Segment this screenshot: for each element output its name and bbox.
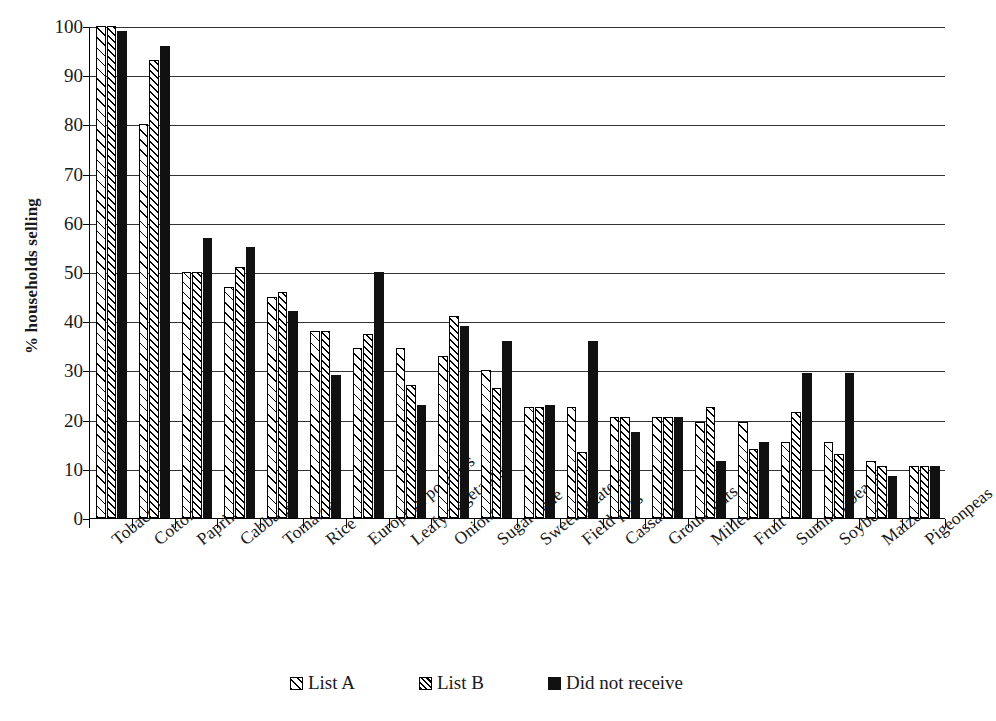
bar-group: [218, 27, 261, 518]
bar: [363, 334, 373, 519]
bar: [567, 407, 577, 518]
bar: [203, 238, 213, 518]
bar-group: [304, 27, 347, 518]
y-axis-tick: [83, 421, 90, 422]
bar: [716, 461, 726, 518]
bar: [781, 442, 791, 518]
bar: [224, 287, 234, 518]
y-axis-tick: [83, 470, 90, 471]
bar-group: [133, 27, 176, 518]
bar: [845, 373, 855, 518]
bar: [706, 407, 716, 518]
bar: [160, 46, 170, 518]
bar: [866, 461, 876, 518]
bar: [749, 449, 759, 518]
legend-label: Did not receive: [566, 672, 683, 694]
bar-group: [390, 27, 433, 518]
bars-layer: [90, 27, 945, 518]
y-axis-tick-label: 30: [27, 361, 83, 380]
bar-group: [732, 27, 775, 518]
bar: [930, 466, 940, 518]
bar-group: [689, 27, 732, 518]
bar: [738, 422, 748, 518]
bar-group: [818, 27, 861, 518]
bar-group: [90, 27, 133, 518]
bar: [492, 388, 502, 518]
bar-group: [561, 27, 604, 518]
bar-group: [860, 27, 903, 518]
x-axis-tick-label: Rice: [323, 515, 359, 549]
bar: [396, 348, 406, 518]
bar: [802, 373, 812, 518]
bar: [888, 476, 898, 518]
bar-group: [518, 27, 561, 518]
bar: [588, 341, 598, 518]
bar: [310, 331, 320, 518]
y-axis-tick: [83, 224, 90, 225]
bar: [909, 466, 919, 518]
bar: [288, 311, 298, 518]
bar: [791, 412, 801, 518]
bar: [920, 466, 930, 518]
legend-item[interactable]: Did not receive: [548, 672, 683, 694]
bar: [278, 292, 288, 518]
bar-group: [432, 27, 475, 518]
y-axis-tick: [83, 125, 90, 126]
bar: [545, 405, 555, 518]
y-axis-tick: [83, 322, 90, 323]
bar-group: [475, 27, 518, 518]
chart-legend: List AList BDid not receive: [0, 668, 973, 698]
y-axis-tick-label: 70: [27, 165, 83, 184]
y-axis-tick: [83, 371, 90, 372]
bar: [524, 407, 534, 518]
bar: [759, 442, 769, 518]
legend-label: List A: [308, 672, 355, 694]
y-axis-tick-label: 20: [27, 411, 83, 430]
bar: [674, 417, 684, 518]
y-axis-tick-labels: 0102030405060708090100: [27, 27, 83, 519]
legend-item[interactable]: List A: [290, 672, 355, 694]
y-axis-tick-label: 90: [27, 66, 83, 85]
y-axis-tick: [83, 175, 90, 176]
bar-group: [176, 27, 219, 518]
legend-swatch-icon: [548, 677, 561, 690]
legend-item[interactable]: List B: [419, 672, 484, 694]
plot-area: [89, 27, 945, 519]
legend-swatch-icon: [290, 677, 303, 690]
bar: [663, 417, 673, 518]
y-axis-tick: [83, 27, 90, 28]
bar-group: [903, 27, 946, 518]
bar: [417, 405, 427, 518]
bar: [374, 272, 384, 518]
bar: [246, 247, 256, 518]
bar: [449, 316, 459, 518]
y-axis-tick-label: 80: [27, 115, 83, 134]
y-axis-tick: [83, 273, 90, 274]
bar: [695, 422, 705, 518]
bar: [267, 297, 277, 518]
bar-group: [646, 27, 689, 518]
x-axis-tick-label: Fruit: [751, 513, 789, 548]
bar: [192, 272, 202, 518]
legend-label: List B: [437, 672, 484, 694]
bar: [96, 26, 106, 518]
bar: [502, 341, 512, 518]
y-axis-tick-label: 10: [27, 460, 83, 479]
bar: [438, 356, 448, 518]
legend-swatch-icon: [419, 677, 432, 690]
bar: [235, 267, 245, 518]
bar: [652, 417, 662, 518]
y-axis-tick-label: 40: [27, 312, 83, 331]
y-axis-tick-label: 100: [27, 17, 83, 36]
bar: [139, 124, 149, 518]
bar: [353, 348, 363, 518]
bar: [631, 432, 641, 518]
bar-group: [775, 27, 818, 518]
bar: [834, 454, 844, 518]
bar: [331, 375, 341, 518]
bar: [406, 385, 416, 518]
x-axis-tick-labels: TobaccoCottonPaprikaCabbageTomatoesRiceE…: [0, 519, 973, 659]
bar: [877, 466, 887, 518]
bar: [182, 272, 192, 518]
